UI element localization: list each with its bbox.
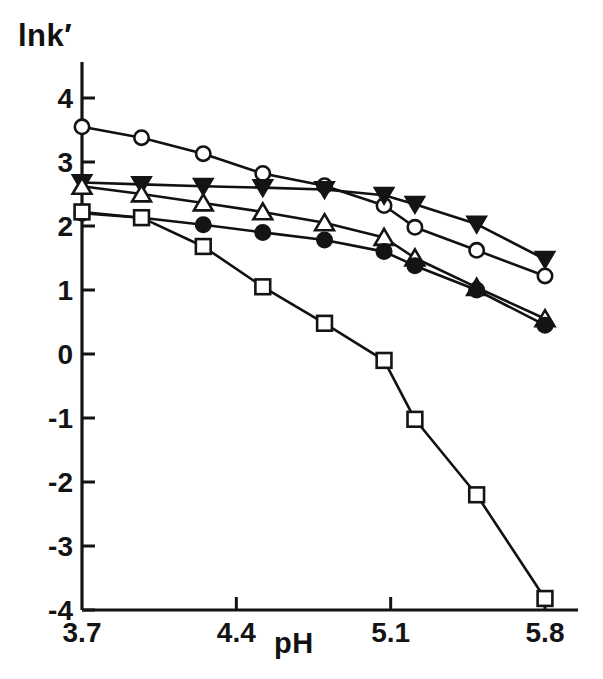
data-point-open-square (134, 210, 149, 225)
data-point-open-circle (469, 243, 483, 257)
x-axis-ticks (236, 597, 545, 610)
data-point-open-circle (196, 146, 210, 160)
data-point-open-circle (538, 269, 552, 283)
x-tick-label: 4.4 (217, 617, 256, 648)
data-point-filled-circle (538, 318, 552, 332)
data-point-open-circle (75, 120, 89, 134)
data-point-open-circle (134, 130, 148, 144)
y-tick-label: -3 (48, 531, 73, 562)
data-series-group (73, 120, 555, 606)
series-open-square (75, 205, 553, 606)
y-axis-tick-labels: -4-3-2-101234 (48, 83, 73, 626)
data-point-open-square (196, 239, 211, 254)
data-point-filled-circle (377, 244, 391, 258)
data-point-filled-triangle-down (467, 217, 486, 233)
y-tick-label: 4 (57, 83, 73, 114)
plot-area: -4-3-2-101234 3.74.45.15.8 (0, 0, 603, 679)
data-point-open-square (317, 316, 332, 331)
data-point-filled-circle (196, 218, 210, 232)
series-line-open-square (82, 212, 545, 599)
data-point-open-square (377, 353, 392, 368)
y-tick-label: 1 (57, 275, 73, 306)
data-point-filled-circle (317, 233, 331, 247)
data-point-filled-circle (408, 258, 422, 272)
data-point-open-square (469, 487, 484, 502)
x-tick-label: 3.7 (63, 617, 102, 648)
data-point-open-square (75, 205, 90, 220)
y-tick-label: 3 (57, 147, 73, 178)
data-point-filled-triangle-down (536, 252, 555, 268)
data-point-filled-triangle-down (406, 197, 425, 213)
data-point-open-circle (408, 220, 422, 234)
y-tick-label: 0 (57, 339, 73, 370)
data-point-open-square (538, 591, 553, 606)
data-point-open-square (255, 279, 270, 294)
series-markers-open-square (75, 205, 553, 606)
x-tick-label: 5.1 (371, 617, 410, 648)
data-point-filled-circle (256, 225, 270, 239)
x-axis-tick-labels: 3.74.45.15.8 (63, 617, 565, 648)
y-tick-label: -2 (48, 467, 73, 498)
y-tick-label: 2 (57, 211, 73, 242)
x-tick-label: 5.8 (526, 617, 565, 648)
y-tick-label: -1 (48, 403, 73, 434)
data-point-filled-circle (469, 283, 483, 297)
data-point-open-circle (256, 166, 270, 180)
chart-figure: lnk′ pH -4-3-2-101234 3.74.45.15.8 (0, 0, 603, 679)
data-point-open-square (408, 412, 423, 427)
